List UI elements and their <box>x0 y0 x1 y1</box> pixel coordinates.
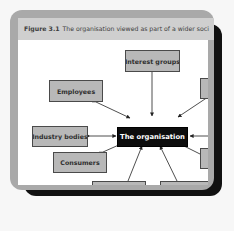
node-right-lower <box>200 148 208 169</box>
figure-number: Figure 3.1 <box>24 25 60 32</box>
node-consumers: Consumers <box>53 152 107 173</box>
node-government: Government <box>160 181 208 185</box>
node-the-organisation: The organisation <box>117 127 188 147</box>
node-media: Media <box>92 181 146 185</box>
arrow-media <box>128 146 142 181</box>
figure-header: Figure 3.1The organisation viewed as par… <box>18 18 214 40</box>
node-employees: Employees <box>49 80 103 102</box>
figure-frame: Figure 3.1The organisation viewed as par… <box>10 10 214 190</box>
figure-caption: Figure 3.1The organisation viewed as par… <box>24 25 209 32</box>
arrow-right-upper <box>178 97 208 117</box>
node-industry-bodies: Industry bodies <box>32 126 88 147</box>
arrow-government <box>160 146 177 181</box>
diagram-canvas: Interest groups Employees Industry bodie… <box>18 40 208 185</box>
node-right-upper <box>200 78 208 99</box>
node-interest-groups: Interest groups <box>125 50 180 72</box>
arrow-employees <box>96 102 130 118</box>
figure-caption-text: The organisation viewed as part of a wid… <box>63 25 209 32</box>
